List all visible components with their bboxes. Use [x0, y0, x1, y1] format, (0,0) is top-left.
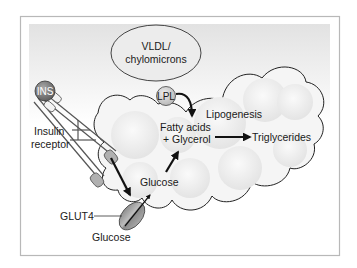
lpl-label: LPL [157, 91, 175, 102]
fatty-acids-label-line2: + Glycerol [163, 133, 211, 145]
vldl-label-line2: chylomicrons [125, 53, 186, 65]
fatty-acids-label-line1: Fatty acids [160, 121, 211, 133]
glut4-label: GLUT4 [60, 210, 94, 222]
insulin-receptor-label-line1: Insulin [34, 125, 65, 137]
insulin-receptor-label-line2: receptor [31, 138, 70, 150]
glucose-outside-label: Glucose [92, 231, 131, 243]
triglycerides-label: Triglycerides [252, 131, 311, 143]
glucose-inside-label: Glucose [140, 176, 179, 188]
adipocyte-insulin-diagram: VLDL/ chylomicrons INS Insulin receptor … [0, 0, 357, 268]
lipogenesis-label: Lipogenesis [206, 108, 262, 120]
vldl-label-line1: VLDL/ [141, 40, 170, 52]
ins-label: INS [37, 86, 54, 97]
